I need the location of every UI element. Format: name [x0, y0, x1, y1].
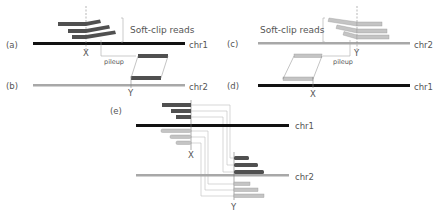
chr1-line	[258, 84, 410, 87]
pileup-guide	[313, 56, 322, 79]
read-clipped	[86, 25, 110, 33]
read-aligned	[68, 29, 86, 33]
breakpoint-x-label: X	[188, 150, 194, 160]
panel-c-label: (c)	[227, 39, 238, 49]
panel-d-label: (d)	[227, 81, 239, 91]
panel-c: (c) chr2 Y Soft-clip reads pileup	[227, 6, 433, 81]
pileup-guide	[283, 56, 294, 79]
pileup-label: pileup	[333, 58, 353, 66]
connector-lines	[191, 105, 234, 196]
read-aligned	[357, 22, 382, 26]
light-read	[234, 182, 250, 186]
chr1-line	[136, 124, 289, 127]
breakpoint-x-label: X	[310, 89, 316, 99]
chr2-line	[258, 42, 410, 45]
light-read	[234, 188, 258, 192]
dark-read	[234, 170, 264, 174]
chr1-label: chr1	[295, 121, 314, 131]
pileup-guide	[161, 56, 168, 78]
pileup-read	[294, 54, 322, 58]
read-aligned	[72, 35, 86, 39]
breakpoint-y-label: Y	[353, 48, 360, 58]
soft-clip-reads	[58, 20, 116, 40]
chr1-label: chr1	[189, 40, 208, 50]
dark-read	[176, 115, 191, 119]
chr1-line	[33, 42, 185, 45]
pileup-guide	[131, 56, 138, 78]
pileup-read	[138, 54, 168, 58]
pileup-read	[131, 76, 161, 80]
soft-clip-annotation: Soft-clip reads	[260, 25, 325, 35]
chr2-line	[136, 174, 289, 177]
pileup-read	[283, 77, 313, 81]
breakpoint-y-label: Y	[230, 202, 237, 212]
dark-read	[162, 103, 191, 107]
panel-b: (b) chr2 Y	[6, 76, 208, 98]
chr1-label: chr1	[414, 82, 433, 92]
read-clipped	[86, 20, 101, 27]
chr2-label: chr2	[414, 40, 433, 50]
read-clipped	[336, 25, 357, 33]
breakpoint-x-label: X	[83, 48, 89, 58]
pileup-label: pileup	[104, 58, 124, 66]
panel-a: (a) chr1 X Soft-clip reads pileup	[6, 6, 208, 80]
dark-read	[171, 109, 191, 113]
light-read	[234, 194, 264, 198]
panel-b-label: (b)	[6, 81, 18, 91]
breakpoint-y-label: Y	[127, 88, 134, 98]
soft-clip-reads	[328, 18, 389, 39]
panel-e-label: (e)	[110, 106, 122, 116]
panel-d: (d) chr1 X	[227, 77, 433, 99]
dark-read	[234, 156, 249, 160]
breakpoint-diagram: (a) chr1 X Soft-clip reads pileup (b) c	[0, 0, 445, 215]
light-read	[170, 135, 191, 139]
chr2-label: chr2	[189, 82, 208, 92]
dark-read	[234, 163, 258, 167]
read-aligned	[357, 35, 389, 39]
chr2-label: chr2	[295, 172, 314, 182]
read-aligned	[58, 22, 86, 26]
light-read	[176, 141, 191, 145]
light-read	[161, 129, 191, 133]
read-clipped	[328, 18, 357, 26]
soft-clip-annotation: Soft-clip reads	[130, 25, 195, 35]
read-aligned	[357, 29, 387, 33]
bracket	[121, 18, 123, 42]
chr2-line	[33, 84, 185, 87]
panel-a-label: (a)	[6, 40, 18, 50]
panel-e: (e) chr1 X chr2 Y	[110, 100, 314, 212]
